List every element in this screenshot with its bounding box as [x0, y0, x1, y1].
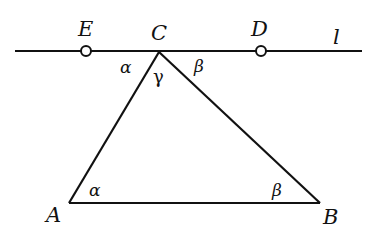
point-d-marker	[256, 46, 266, 56]
angle-beta-top: β	[193, 56, 204, 76]
label-d: D	[250, 17, 268, 41]
angle-beta-bottom: β	[271, 180, 282, 200]
label-l: l	[333, 25, 340, 49]
angle-gamma: γ	[153, 66, 164, 87]
angle-alpha-bottom: α	[89, 180, 101, 200]
label-c: C	[151, 21, 167, 45]
label-e: E	[77, 17, 93, 41]
label-b: B	[322, 205, 338, 229]
side-cb	[159, 52, 320, 203]
geometry-diagram: E C D l A B α γ β α β	[0, 0, 378, 246]
label-a: A	[44, 203, 61, 227]
diagram-svg: E C D l A B α γ β α β	[0, 0, 378, 246]
angle-alpha-top: α	[120, 57, 132, 77]
point-e-marker	[81, 46, 91, 56]
side-ca	[69, 52, 159, 203]
